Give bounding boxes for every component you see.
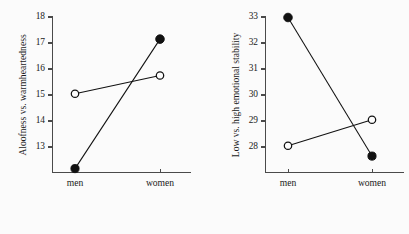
right-xtick-label-women: women bbox=[358, 177, 386, 188]
left-ytick-label-14: 14 bbox=[36, 115, 46, 125]
left-ytick-label-17: 17 bbox=[36, 37, 46, 47]
left-ytick-label-18: 18 bbox=[36, 11, 46, 21]
left-series bbox=[71, 35, 164, 173]
left-y-axis bbox=[48, 17, 53, 172]
right-ytick-label-31: 31 bbox=[249, 63, 259, 73]
right-ytick-label-32: 32 bbox=[249, 37, 259, 47]
right-point-open-men bbox=[284, 142, 291, 149]
right-ytick-label-30: 30 bbox=[249, 89, 259, 99]
right-series bbox=[284, 13, 376, 160]
chart-panel-right: 33 32 31 30 29 28 men women Low vs. high… bbox=[205, 0, 409, 234]
left-ytick-label-16: 16 bbox=[36, 63, 46, 73]
right-y-axis-title: Low vs. high emotional stability bbox=[230, 33, 241, 158]
left-y-tick-labels: 18 17 16 15 14 13 bbox=[36, 11, 46, 151]
left-y-axis-title: Aloofness vs. warmheartedness bbox=[17, 34, 28, 155]
right-point-filled-men bbox=[284, 13, 293, 22]
left-series-open-line bbox=[75, 76, 160, 94]
left-xtick-label-men: men bbox=[67, 177, 84, 188]
left-point-filled-women bbox=[156, 35, 165, 44]
left-point-open-women bbox=[156, 72, 163, 79]
left-ytick-label-15: 15 bbox=[36, 89, 46, 99]
left-x-tick-labels: men women bbox=[67, 177, 175, 188]
right-series-open-line bbox=[288, 120, 372, 146]
right-series-filled-line bbox=[288, 18, 372, 157]
right-ytick-label-28: 28 bbox=[249, 141, 259, 151]
left-point-filled-men bbox=[71, 165, 79, 173]
right-point-open-women bbox=[368, 116, 375, 123]
right-point-filled-women bbox=[368, 152, 376, 160]
figure-container: 18 17 16 15 14 13 men women Aloofness vs… bbox=[0, 0, 409, 234]
right-y-tick-labels: 33 32 31 30 29 28 bbox=[249, 11, 259, 151]
right-ytick-label-29: 29 bbox=[249, 115, 259, 125]
left-ytick-label-13: 13 bbox=[36, 141, 46, 151]
right-ytick-label-33: 33 bbox=[249, 11, 259, 21]
right-x-axis bbox=[265, 169, 404, 173]
right-y-axis bbox=[261, 17, 266, 172]
left-series-filled-line bbox=[75, 39, 160, 169]
right-xtick-label-men: men bbox=[280, 177, 297, 188]
left-xtick-label-women: women bbox=[146, 177, 174, 188]
chart-panel-left: 18 17 16 15 14 13 men women Aloofness vs… bbox=[0, 0, 205, 234]
right-x-tick-labels: men women bbox=[280, 177, 387, 188]
left-point-open-men bbox=[71, 90, 78, 97]
